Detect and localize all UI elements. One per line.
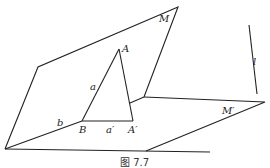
label-M: M	[158, 13, 170, 24]
hidden-edge-segment	[130, 97, 144, 103]
line-AA-prime	[119, 49, 133, 121]
geometry-figure: M M′ A A′ B a a′ b l 图 7.7	[0, 0, 270, 168]
figure-caption: 图 7.7	[120, 157, 149, 168]
label-A-prime: A′	[127, 124, 138, 135]
label-B: B	[78, 124, 86, 135]
line-a	[82, 49, 119, 121]
plane-M-outline	[5, 7, 178, 149]
label-l: l	[253, 56, 256, 67]
label-b: b	[57, 117, 63, 128]
plane-M-prime-outline	[144, 97, 265, 151]
label-M-prime: M′	[221, 105, 235, 116]
label-a-prime: a′	[106, 124, 115, 135]
line-b	[5, 121, 82, 149]
label-a: a	[90, 81, 96, 92]
plane-M-prime-bottom-edge	[5, 149, 210, 152]
label-A: A	[121, 43, 129, 54]
